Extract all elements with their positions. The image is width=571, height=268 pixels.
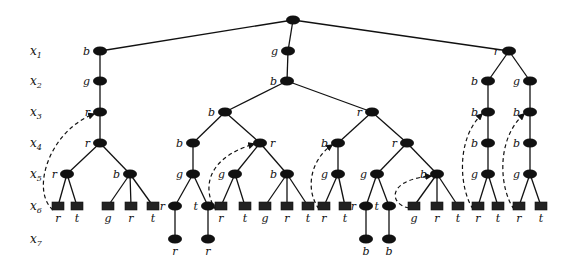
tree-node: r bbox=[85, 137, 107, 150]
node-oval-icon bbox=[201, 235, 215, 244]
tree-node: b bbox=[321, 137, 345, 150]
node-value-label: b bbox=[362, 245, 369, 258]
node-oval-icon bbox=[523, 108, 537, 117]
node-oval-icon bbox=[331, 139, 345, 148]
node-oval-icon bbox=[382, 202, 396, 211]
node-value-label: b bbox=[270, 168, 277, 181]
dead-end-square-icon bbox=[492, 202, 504, 210]
tree-node: r bbox=[160, 200, 182, 213]
leaf-node: r bbox=[472, 202, 484, 225]
node-oval-icon bbox=[93, 139, 107, 148]
node-value-label: r bbox=[392, 137, 398, 150]
leaf-node: r bbox=[281, 202, 293, 225]
tree-node: b bbox=[83, 45, 107, 58]
tree-node: b bbox=[471, 137, 495, 150]
node-value-label: t bbox=[194, 200, 199, 213]
tree-edge bbox=[130, 174, 153, 206]
node-oval-icon bbox=[93, 77, 107, 86]
leaf-node: r bbox=[431, 202, 443, 225]
dead-end-square-icon bbox=[535, 202, 547, 210]
dead-end-square-icon bbox=[302, 202, 314, 210]
tree-edge bbox=[225, 112, 260, 143]
node-oval-icon bbox=[481, 139, 495, 148]
node-value-label: r bbox=[172, 245, 178, 258]
node-value-label: g bbox=[321, 168, 328, 181]
node-value-label: g bbox=[176, 168, 183, 181]
tree-node: b bbox=[513, 137, 537, 150]
variable-row-labels: x1x2x3x4x5x6x7 bbox=[30, 44, 43, 248]
node-oval-icon bbox=[280, 170, 294, 179]
tree-node: g bbox=[271, 45, 295, 58]
node-value-label: b bbox=[208, 106, 215, 119]
node-oval-icon bbox=[370, 170, 384, 179]
tree-edge bbox=[67, 174, 77, 206]
backjump-arrow bbox=[462, 114, 482, 209]
tree-edge bbox=[58, 174, 67, 206]
node-value-label: r bbox=[160, 200, 166, 213]
tree-edge bbox=[478, 174, 488, 206]
node-value-label: r bbox=[351, 200, 357, 213]
node-value-label: r bbox=[85, 106, 91, 119]
dead-end-square-icon bbox=[71, 202, 83, 210]
node-oval-icon bbox=[93, 108, 107, 117]
node-value-label: b bbox=[321, 137, 328, 150]
leaf-node: t bbox=[535, 202, 547, 225]
leaf-node: r bbox=[125, 202, 137, 225]
tree-node: g bbox=[321, 168, 345, 181]
node-value-label: r bbox=[52, 168, 58, 181]
node-value-label: t bbox=[343, 212, 348, 225]
node-oval-icon bbox=[359, 202, 373, 211]
node-value-label: r bbox=[494, 45, 500, 58]
node-value-label: t bbox=[539, 212, 544, 225]
tree-edge bbox=[372, 112, 407, 143]
node-value-label: r bbox=[357, 106, 363, 119]
tree-node: g bbox=[83, 75, 107, 88]
search-tree-diagram: x1x2x3x4x5x6x7 bgrrrbrtgrtgbbbgrtrrrgbrt… bbox=[0, 0, 571, 268]
node-oval-icon bbox=[280, 77, 294, 86]
node-value-label: b bbox=[176, 137, 183, 150]
tree-edge bbox=[100, 20, 293, 51]
node-oval-icon bbox=[281, 47, 295, 56]
leaf-node: r bbox=[318, 202, 330, 225]
tree-node: b bbox=[270, 75, 294, 88]
dead-end-square-icon bbox=[431, 202, 443, 210]
tree-edge bbox=[488, 174, 498, 206]
tree-edge bbox=[287, 51, 288, 81]
backjump-arrow bbox=[503, 114, 524, 209]
tree-edge bbox=[225, 81, 287, 112]
leaf-node: g bbox=[408, 202, 420, 225]
tree-node: r bbox=[357, 106, 379, 119]
node-oval-icon bbox=[523, 77, 537, 86]
node-value-label: r bbox=[205, 245, 211, 258]
node-oval-icon bbox=[228, 170, 242, 179]
leaf-node: g bbox=[102, 202, 114, 225]
dead-end-square-icon bbox=[408, 202, 420, 210]
node-value-label: r bbox=[270, 137, 276, 150]
tree-edge bbox=[530, 174, 541, 206]
tree-node: g bbox=[513, 168, 537, 181]
node-value-label: g bbox=[513, 168, 520, 181]
node-oval-icon bbox=[168, 202, 182, 211]
leaf-node: t bbox=[71, 202, 83, 225]
node-value-label: g bbox=[83, 75, 90, 88]
node-oval-icon bbox=[93, 47, 107, 56]
node-value-label: g bbox=[513, 75, 520, 88]
row-label-x1: x1 bbox=[30, 44, 42, 60]
node-value-label: b bbox=[471, 137, 478, 150]
tree-edge bbox=[437, 174, 458, 206]
dead-end-square-icon bbox=[472, 202, 484, 210]
node-value-label: g bbox=[360, 168, 367, 181]
node-value-label: r bbox=[218, 212, 224, 225]
tree-node: r bbox=[168, 235, 182, 259]
tree-nodes: bgrrrbrtgrtgbbbgrtrrrgbrtgrtrbgrtrgrtbbb… bbox=[52, 16, 547, 259]
node-oval-icon bbox=[168, 235, 182, 244]
row-label-x6: x6 bbox=[30, 199, 42, 215]
node-value-label: t bbox=[151, 212, 156, 225]
tree-node bbox=[286, 16, 300, 25]
dead-end-square-icon bbox=[259, 202, 271, 210]
row-label-x7: x7 bbox=[30, 232, 43, 248]
node-value-label: b bbox=[471, 106, 478, 119]
node-value-label: b bbox=[270, 75, 277, 88]
tree-node: g bbox=[471, 168, 495, 181]
tree-edge bbox=[519, 174, 530, 206]
